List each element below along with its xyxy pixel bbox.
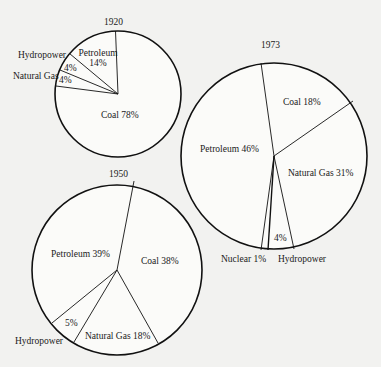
- pie-1973-coal-label: Coal 18%: [283, 97, 321, 107]
- pie-1973-petroleum-label: Petroleum 46%: [200, 144, 259, 154]
- pie-1950-petroleum-label: Petroleum 39%: [51, 249, 110, 259]
- pie-1920-hydro-pct: 4%: [64, 63, 77, 73]
- pie-1920-title: 1920: [104, 17, 123, 27]
- pie-1950: [32, 181, 202, 355]
- pie-1920-hydropower-callout: Hydropower: [18, 50, 66, 60]
- pie-1950-hydro-pct: 5%: [65, 318, 78, 328]
- pie-1973-hydro-pct: 4%: [274, 233, 287, 243]
- pie-1950-coal-label: Coal 38%: [141, 256, 179, 266]
- pie-1950-title: 1950: [109, 169, 128, 179]
- pie-1920-gas-pct: 4%: [59, 75, 72, 85]
- pie-charts-figure: 1920 Petroleum 14% 4% 4% Hydropower Natu…: [0, 0, 381, 367]
- pie-1920-natural-gas-callout: Natural Gas: [13, 71, 59, 81]
- pie-1973: [181, 63, 367, 250]
- pie-1973-nuclear-label: Nuclear 1%: [221, 254, 266, 264]
- pie-1950-natural-gas-label: Natural Gas 18%: [85, 331, 150, 341]
- petroleum-name: Petroleum: [75, 48, 121, 58]
- pie-1950-hydropower-callout: Hydropower: [15, 336, 63, 346]
- petroleum-pct: 14%: [75, 58, 121, 68]
- pie-1973-natural-gas-label: Natural Gas 31%: [288, 168, 353, 178]
- pie-1973-title: 1973: [261, 40, 280, 50]
- pie-1920-petroleum-label: Petroleum 14%: [75, 48, 121, 68]
- pie-1920-coal-label: Coal 78%: [101, 110, 139, 120]
- pie-1973-hydropower-callout: Hydropower: [278, 254, 326, 264]
